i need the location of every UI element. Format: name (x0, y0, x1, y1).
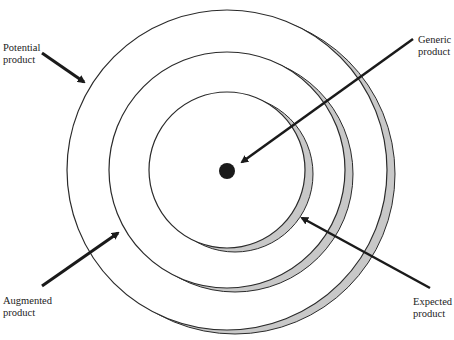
generic-core-dot (219, 163, 235, 179)
label-line: product (3, 307, 52, 319)
rings-svg (0, 0, 454, 340)
label-line: Expected (413, 296, 452, 308)
label-line: product (3, 54, 40, 66)
label-line: Potential (3, 42, 40, 54)
label-line: product (418, 46, 451, 58)
augmented-product-label: Augmented product (3, 295, 52, 319)
label-line: Generic (418, 34, 451, 46)
potential-product-label: Potential product (3, 42, 40, 66)
expected-product-label: Expected product (413, 296, 452, 320)
product-levels-diagram: Potential product Generic product Augmen… (0, 0, 454, 340)
generic-product-label: Generic product (418, 34, 451, 58)
label-line: product (413, 308, 452, 320)
label-line: Augmented (3, 295, 52, 307)
potential-arrow (42, 53, 84, 82)
